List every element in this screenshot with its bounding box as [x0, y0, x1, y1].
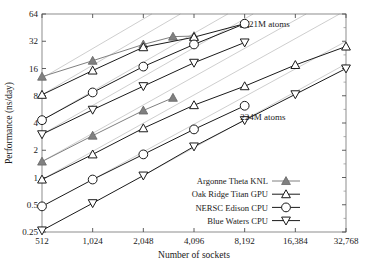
marker-circle-open — [240, 101, 249, 110]
chart-figure: 0.250.512481632645121,0242,0484,0968,192… — [0, 0, 377, 270]
legend-label: Oak Ridge Titan GPU — [192, 189, 269, 199]
marker-circle-open — [190, 125, 199, 134]
y-tick-label: 2 — [34, 145, 39, 155]
legend-item-2[interactable]: NERSC Edison CPU — [195, 203, 300, 213]
legend-label: NERSC Edison CPU — [195, 203, 268, 213]
marker-triangle-down-open — [240, 39, 249, 47]
chart-svg: 0.250.512481632645121,0242,0484,0968,192… — [0, 0, 377, 270]
marker-triangle-up-open — [38, 175, 47, 183]
x-tick-label: 2,048 — [133, 236, 154, 246]
marker-circle-open — [240, 19, 249, 28]
series-line — [42, 98, 173, 162]
x-tick-label: 32,768 — [334, 236, 359, 246]
marker-triangle-down-open — [139, 83, 148, 91]
series-7 — [38, 65, 351, 235]
y-tick-label: 0.5 — [27, 200, 39, 210]
series-layer — [38, 19, 351, 235]
marker-triangle-up-filled — [88, 56, 97, 64]
legend-item-1[interactable]: Oak Ridge Titan GPU — [192, 189, 300, 199]
y-tick-label: 16 — [29, 64, 39, 74]
x-tick-label: 512 — [35, 236, 49, 246]
legend: Argonne Theta KNLOak Ridge Titan GPUNERS… — [192, 176, 300, 226]
annotation-1: 224M atoms — [240, 112, 286, 122]
marker-circle-open — [282, 203, 291, 212]
marker-triangle-up-filled — [38, 157, 47, 165]
marker-triangle-up-open — [38, 90, 47, 98]
marker-triangle-up-filled — [169, 93, 178, 101]
marker-triangle-down-open — [88, 200, 97, 208]
ideal-scaling-3 — [42, 14, 228, 120]
y-tick-label: 64 — [29, 9, 39, 19]
legend-label: Argonne Theta KNL — [197, 176, 268, 186]
marker-triangle-up-open — [190, 101, 199, 109]
marker-circle-open — [190, 40, 199, 49]
legend-label: Blue Waters CPU — [207, 216, 269, 226]
marker-circle-open — [139, 150, 148, 159]
legend-item-3[interactable]: Blue Waters CPU — [207, 216, 300, 226]
marker-triangle-down-open — [291, 91, 300, 99]
y-tick-label: 1 — [34, 173, 39, 183]
marker-triangle-up-open — [291, 61, 300, 69]
marker-circle-open — [88, 88, 97, 97]
y-axis-title: Performance (ns/day) — [4, 82, 15, 164]
x-tick-label: 8,192 — [235, 236, 255, 246]
series-0 — [38, 32, 199, 81]
marker-circle-open — [38, 116, 47, 125]
x-axis-title: Number of sockets — [158, 250, 230, 260]
marker-circle-open — [38, 202, 47, 211]
marker-triangle-down-open — [139, 172, 148, 180]
marker-triangle-up-open — [240, 82, 249, 90]
marker-triangle-up-open — [88, 150, 97, 158]
x-tick-label: 4,096 — [184, 236, 205, 246]
marker-circle-open — [88, 175, 97, 184]
y-tick-label: 8 — [34, 91, 39, 101]
marker-triangle-down-open — [190, 59, 199, 67]
legend-item-0[interactable]: Argonne Theta KNL — [197, 176, 300, 186]
marker-triangle-up-filled — [139, 106, 148, 114]
marker-circle-open — [139, 62, 148, 71]
marker-triangle-down-open — [88, 106, 97, 114]
x-tick-label: 1,024 — [83, 236, 104, 246]
series-4 — [38, 93, 178, 165]
annotation-0: 21M atoms — [249, 19, 290, 29]
marker-triangle-down-open — [38, 131, 47, 139]
marker-triangle-down-open — [38, 227, 47, 235]
x-tick-label: 16,384 — [283, 236, 308, 246]
y-tick-label: 32 — [29, 36, 38, 46]
